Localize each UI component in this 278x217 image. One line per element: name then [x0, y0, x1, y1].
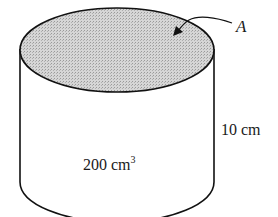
volume-value: 200 cm — [83, 156, 131, 173]
volume-label: 200 cm3 — [83, 154, 136, 173]
volume-exponent: 3 — [131, 154, 136, 165]
top-face-label: A — [235, 17, 247, 36]
cylinder-diagram: A 10 cm 200 cm3 — [0, 0, 278, 217]
height-label: 10 cm — [221, 121, 261, 138]
top-face-A — [20, 8, 214, 92]
bottom-edge-arc — [20, 182, 214, 217]
